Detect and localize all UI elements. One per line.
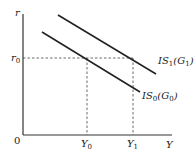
- is0-curve: [42, 32, 140, 92]
- y0-label: Y0: [81, 138, 92, 151]
- x-axis-label: Y: [166, 139, 174, 150]
- y1-label: Y1: [127, 138, 138, 151]
- origin-label: 0: [14, 135, 20, 146]
- is1-curve: [58, 15, 156, 74]
- is1-label: IS1(G1): [157, 55, 194, 68]
- is0-label: IS0(G0): [141, 90, 178, 103]
- y-axis-label: r: [15, 7, 21, 18]
- is-curve-diagram: r Y 0 r0 Y0 Y1 IS1(G1) IS0(G0): [0, 0, 196, 156]
- r0-label: r0: [11, 52, 20, 65]
